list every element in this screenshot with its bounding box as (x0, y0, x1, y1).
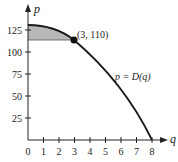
y-tick-label: 75 (12, 69, 22, 80)
y-axis-label: p (33, 2, 40, 16)
y-tick-label: 25 (12, 113, 22, 124)
point-label: (3, 110) (77, 29, 108, 41)
y-tick-label: 50 (12, 91, 22, 102)
curve-label: p = D(q) (114, 71, 151, 83)
x-tick-label: 6 (119, 146, 124, 157)
x-tick-label: 5 (103, 146, 108, 157)
x-tick-label: 8 (150, 146, 155, 157)
x-tick-label: 7 (134, 146, 139, 157)
demand-curve (28, 25, 152, 140)
x-tick-label: 2 (57, 146, 62, 157)
x-axis-label: q (170, 132, 176, 146)
x-tick-label: 3 (72, 146, 77, 157)
y-tick-label: 100 (7, 47, 22, 58)
x-tick-label: 1 (41, 146, 46, 157)
x-axis-arrow-icon (160, 137, 168, 143)
demand-chart: 125 100 75 50 25 0 1 2 3 4 5 6 7 8 p q (… (0, 0, 178, 162)
y-axis-arrow-icon (25, 4, 31, 12)
x-tick-label: 4 (88, 146, 93, 157)
y-tick-label: 125 (7, 25, 22, 36)
x-tick-label: 0 (26, 146, 31, 157)
